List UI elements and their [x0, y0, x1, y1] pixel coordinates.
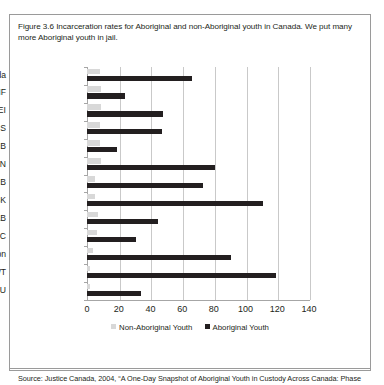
bar-aboriginal — [87, 201, 263, 206]
chart-bar-group: NB — [87, 139, 309, 157]
x-axis-tick-label: 40 — [135, 304, 165, 314]
bar-aboriginal — [87, 129, 162, 134]
y-axis-category-label: Canada — [0, 70, 6, 80]
y-axis-tick — [84, 85, 87, 86]
bar-non-aboriginal — [87, 176, 95, 182]
legend-item-aboriginal: Aboriginal Youth — [205, 323, 269, 332]
x-axis-tick — [274, 300, 277, 301]
y-axis-category-label: PEI — [0, 105, 6, 115]
bar-aboriginal — [87, 76, 192, 81]
chart-bar-group: Yukon — [87, 246, 309, 264]
x-axis-tick-label: 20 — [104, 304, 134, 314]
y-axis-category-label: BC — [0, 231, 6, 241]
figure-container: Figure 3.6 Incarceration rates for Abori… — [9, 14, 371, 371]
bar-non-aboriginal — [87, 266, 90, 272]
y-axis-category-label: NWT — [0, 267, 6, 277]
chart-bar-group: NWT — [87, 264, 309, 282]
y-axis-category-label: NF — [0, 87, 6, 97]
x-axis-tick — [179, 300, 182, 301]
bar-non-aboriginal — [87, 194, 95, 200]
y-axis-category-label: NU — [0, 285, 6, 295]
bar-aboriginal — [87, 93, 125, 98]
x-axis-tick — [243, 300, 246, 301]
chart-bar-group: Canada — [87, 67, 309, 85]
bar-non-aboriginal — [87, 212, 98, 218]
y-axis-category-label: Yukon — [0, 249, 6, 259]
chart-bar-group: NF — [87, 85, 309, 103]
y-axis-tick — [84, 210, 87, 211]
chart-plot-area: Non-Aboriginal Youth Aboriginal Youth So… — [10, 61, 370, 311]
legend-swatch-icon-non-aboriginal — [111, 324, 116, 329]
y-axis-category-label: MB — [0, 177, 6, 187]
chart-bar-group: BC — [87, 228, 309, 246]
chart-bar-group: ON — [87, 157, 309, 175]
legend-label-non-aboriginal: Non-Aboriginal Youth — [119, 323, 192, 332]
x-axis-tick — [211, 300, 214, 301]
chart-legend: Non-Aboriginal Youth Aboriginal Youth — [10, 323, 370, 332]
bar-non-aboriginal — [87, 248, 93, 254]
x-axis-tick — [147, 300, 150, 301]
y-axis-category-label: NS — [0, 123, 6, 133]
x-axis-tick — [116, 300, 119, 301]
y-axis-tick — [84, 103, 87, 104]
source-divider — [10, 368, 370, 369]
bar-aboriginal — [87, 147, 117, 152]
y-axis-tick — [84, 121, 87, 122]
y-axis-tick — [84, 139, 87, 140]
source-citation: Source: Justice Canada, 2004, “A One-Day… — [18, 374, 361, 385]
y-axis-tick — [84, 246, 87, 247]
bar-aboriginal — [87, 165, 215, 170]
y-axis-category-label: SK — [0, 195, 6, 205]
chart-bar-group: PEI — [87, 103, 309, 121]
chart-bar-group: NU — [87, 282, 309, 300]
chart-bar-group: NS — [87, 121, 309, 139]
x-axis-tick-label: 0 — [72, 304, 102, 314]
bar-non-aboriginal — [87, 158, 101, 164]
bar-non-aboriginal — [87, 122, 100, 128]
y-axis-tick — [84, 157, 87, 158]
y-axis-tick — [84, 67, 87, 68]
y-axis-tick — [84, 228, 87, 229]
bar-aboriginal — [87, 255, 231, 260]
gridline — [310, 67, 311, 300]
y-axis-category-label: ON — [0, 159, 6, 169]
y-axis-category-label: AB — [0, 213, 6, 223]
x-axis-tick-label: 100 — [231, 304, 261, 314]
bar-aboriginal — [87, 291, 141, 296]
bar-aboriginal — [87, 273, 276, 278]
x-axis-tick — [84, 300, 87, 301]
bar-non-aboriginal — [87, 140, 100, 146]
bar-non-aboriginal — [87, 69, 100, 75]
bar-aboriginal — [87, 111, 163, 116]
chart-bar-group: SK — [87, 192, 309, 210]
x-axis-tick-label: 60 — [167, 304, 197, 314]
x-axis-tick-label: 120 — [262, 304, 292, 314]
legend-swatch-icon-aboriginal — [205, 324, 210, 329]
bar-aboriginal — [87, 219, 158, 224]
y-axis-tick — [84, 175, 87, 176]
chart-bar-group: AB — [87, 210, 309, 228]
bar-non-aboriginal — [87, 104, 101, 110]
x-axis-tick-label: 80 — [199, 304, 229, 314]
source-note: Source: Justice Canada, 2004, “A One-Day… — [18, 374, 364, 385]
figure-caption: Figure 3.6 Incarceration rates for Abori… — [18, 21, 362, 44]
bar-aboriginal — [87, 183, 203, 188]
bar-non-aboriginal — [87, 284, 90, 290]
y-axis-tick — [84, 192, 87, 193]
legend-label-aboriginal: Aboriginal Youth — [213, 323, 269, 332]
bar-aboriginal — [87, 237, 136, 242]
y-axis-category-label: NB — [0, 141, 6, 151]
chart-bar-group: MB — [87, 175, 309, 193]
y-axis-tick — [84, 264, 87, 265]
legend-item-non-aboriginal: Non-Aboriginal Youth — [111, 323, 192, 332]
bar-non-aboriginal — [87, 230, 97, 236]
bar-non-aboriginal — [87, 86, 101, 92]
x-axis-tick-label: 140 — [294, 304, 324, 314]
y-axis-tick — [84, 282, 87, 283]
x-axis-tick — [306, 300, 309, 301]
